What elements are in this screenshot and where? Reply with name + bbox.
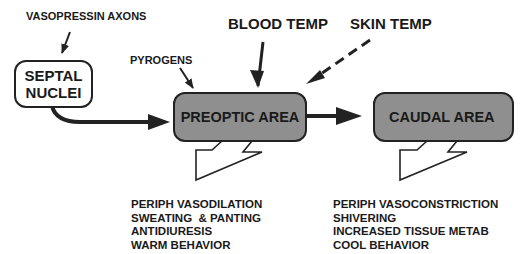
caudal-output-item: COOL BEHAVIOR bbox=[333, 239, 498, 253]
vasopressin-arrow bbox=[62, 32, 70, 53]
skin-temp-label: SKIN TEMP bbox=[350, 15, 432, 32]
pyrogens-arrow bbox=[180, 68, 193, 88]
preoptic-output-item: SWEATING & PANTING bbox=[131, 212, 262, 226]
vasopressin-axons-label: VASOPRESSIN AXONS bbox=[26, 10, 146, 22]
septal-to-preoptic-arrow bbox=[52, 106, 150, 122]
preoptic-output-item: PERIPH VASODILATION bbox=[131, 198, 262, 212]
caudal-output-item: PERIPH VASOCONSTRICTION bbox=[333, 198, 498, 212]
pyrogens-label: PYROGENS bbox=[130, 54, 192, 66]
blood-temp-label: BLOOD TEMP bbox=[228, 15, 328, 32]
caudal-area-node: CAUDAL AREA bbox=[373, 92, 514, 142]
preoptic-outputs-list: PERIPH VASODILATION SWEATING & PANTING A… bbox=[131, 198, 262, 252]
septal-nuclei-line2: NUCLEI bbox=[26, 84, 82, 101]
preoptic-output-item: ANTIDIURESIS bbox=[131, 225, 262, 239]
septal-nuclei-line1: SEPTAL bbox=[24, 67, 82, 84]
septal-nuclei-node: SEPTAL NUCLEI bbox=[14, 60, 93, 108]
caudal-output-item: INCREASED TISSUE METAB bbox=[333, 225, 498, 239]
skin-temp-arrow bbox=[315, 40, 370, 78]
preoptic-area-node: PREOPTIC AREA bbox=[173, 92, 307, 142]
caudal-outputs-list: PERIPH VASOCONSTRICTION SHIVERING INCREA… bbox=[333, 198, 498, 252]
caudal-effector-symbol bbox=[400, 141, 467, 180]
caudal-output-item: SHIVERING bbox=[333, 212, 498, 226]
preoptic-output-item: WARM BEHAVIOR bbox=[131, 239, 262, 253]
preoptic-effector-symbol bbox=[196, 141, 262, 180]
